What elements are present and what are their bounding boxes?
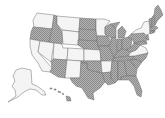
state-hawaii[interactable] [50, 88, 71, 101]
state-new-jersey[interactable] [146, 35, 149, 40]
state-washington[interactable] [33, 13, 54, 29]
state-new-york[interactable] [131, 21, 150, 35]
state-alaska[interactable] [8, 68, 46, 102]
state-kansas[interactable] [84, 49, 101, 61]
state-maine[interactable] [154, 5, 163, 25]
state-florida[interactable] [121, 76, 142, 97]
state-mississippi[interactable] [111, 61, 118, 83]
state-wyoming[interactable] [62, 30, 79, 45]
state-arkansas[interactable] [101, 61, 112, 73]
state-nebraska[interactable] [78, 40, 100, 50]
state-north-dakota[interactable] [79, 18, 96, 30]
state-arizona[interactable] [50, 59, 67, 78]
state-south-dakota[interactable] [79, 29, 97, 41]
state-new-mexico[interactable] [65, 60, 81, 78]
state-colorado[interactable] [67, 48, 84, 61]
us-map [0, 0, 165, 118]
state-iowa[interactable] [97, 36, 111, 46]
state-utah[interactable] [53, 43, 68, 60]
